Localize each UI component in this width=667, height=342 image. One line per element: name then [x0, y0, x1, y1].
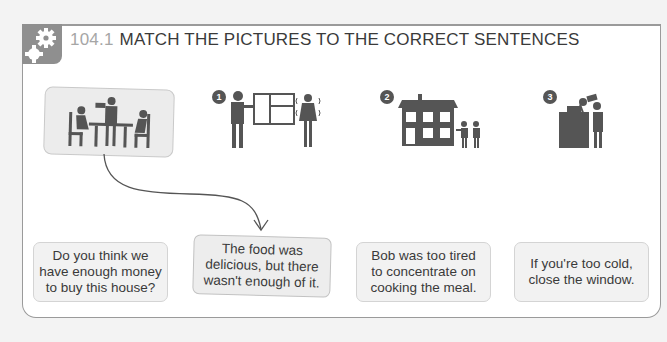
exercise-heading: MATCH THE PICTURES TO THE CORRECT SENTEN… — [120, 30, 580, 49]
sentence-text: Bob was too tired to concentrate on cook… — [371, 248, 477, 296]
sentence-card-close-window[interactable]: If you're too cold, close the window. — [514, 242, 649, 302]
sentence-text: If you're too cold, close the window. — [529, 256, 635, 288]
picture-3-chef[interactable]: 3 — [543, 90, 643, 156]
sentence-card-house-money[interactable]: Do you think we have enough money to buy… — [33, 242, 168, 302]
picture-2-house[interactable]: 2 — [380, 90, 500, 156]
picture-number-badge: 2 — [380, 90, 394, 104]
picture-example-restaurant[interactable] — [43, 86, 175, 157]
chef-icon — [543, 90, 643, 156]
exercise-title: 104.1MATCH THE PICTURES TO THE CORRECT S… — [70, 30, 580, 50]
restaurant-icon — [44, 87, 174, 156]
sentence-card-food-delicious[interactable]: The food was delicious, but there wasn't… — [192, 234, 332, 298]
sentence-text: Do you think we have enough money to buy… — [39, 248, 161, 296]
sentence-card-bob-tired[interactable]: Bob was too tired to concentrate on cook… — [356, 242, 491, 302]
picture-1-window[interactable]: 1 — [212, 90, 332, 156]
picture-number-badge: 1 — [212, 90, 226, 104]
window-cold-icon — [212, 90, 332, 156]
gears-icon — [22, 24, 62, 64]
house-icon — [380, 90, 500, 156]
picture-number-badge: 3 — [543, 90, 557, 104]
exercise-number: 104.1 — [70, 30, 114, 49]
sentence-text: The food was delicious, but there wasn't… — [203, 240, 320, 291]
